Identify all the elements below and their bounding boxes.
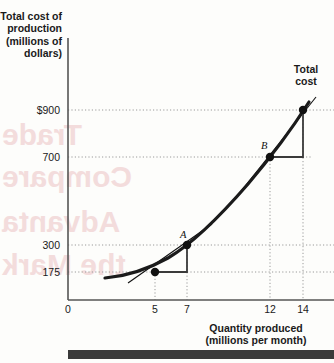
total-cost-curve-figure: Trade Compare Advanta the Mark Total cos… <box>0 0 334 363</box>
plot-canvas <box>0 0 334 363</box>
data-point-b-12-700 <box>266 153 274 161</box>
total-cost-curve <box>105 102 309 278</box>
data-point-14-900 <box>299 106 307 114</box>
data-point-a-7-300 <box>183 241 191 249</box>
bottom-rule-bar <box>68 350 334 359</box>
data-point-5-175 <box>151 268 159 276</box>
